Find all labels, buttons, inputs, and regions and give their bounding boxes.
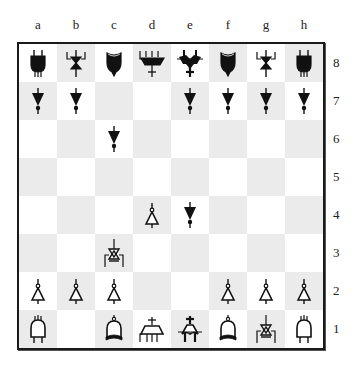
square-d3[interactable] (133, 234, 171, 272)
square-f1[interactable] (209, 310, 247, 348)
white-knight-icon[interactable] (99, 237, 129, 269)
square-c6[interactable] (95, 120, 133, 158)
square-h7[interactable] (285, 82, 323, 120)
rank-label-6: 6 (333, 120, 349, 158)
square-b6[interactable] (57, 120, 95, 158)
square-b5[interactable] (57, 158, 95, 196)
black-bishop-icon[interactable] (213, 47, 243, 79)
square-g6[interactable] (247, 120, 285, 158)
square-c8[interactable] (95, 44, 133, 82)
square-b8[interactable] (57, 44, 95, 82)
square-f3[interactable] (209, 234, 247, 272)
square-a5[interactable] (19, 158, 57, 196)
square-d6[interactable] (133, 120, 171, 158)
square-d1[interactable] (133, 310, 171, 348)
file-label-a: a (19, 17, 57, 33)
square-f7[interactable] (209, 82, 247, 120)
square-e5[interactable] (171, 158, 209, 196)
black-queen-icon[interactable] (137, 47, 167, 79)
square-f5[interactable] (209, 158, 247, 196)
file-label-c: c (95, 17, 133, 33)
square-d2[interactable] (133, 272, 171, 310)
square-e6[interactable] (171, 120, 209, 158)
black-knight-icon[interactable] (251, 47, 281, 79)
black-bishop-icon[interactable] (99, 47, 129, 79)
white-pawn-icon[interactable] (213, 275, 243, 307)
square-g4[interactable] (247, 196, 285, 234)
square-c1[interactable] (95, 310, 133, 348)
square-a6[interactable] (19, 120, 57, 158)
square-h6[interactable] (285, 120, 323, 158)
black-pawn-icon[interactable] (175, 85, 205, 117)
square-a1[interactable] (19, 310, 57, 348)
black-rook-icon[interactable] (23, 47, 53, 79)
black-pawn-icon[interactable] (289, 85, 319, 117)
square-h8[interactable] (285, 44, 323, 82)
square-e1[interactable] (171, 310, 209, 348)
white-king-icon[interactable] (175, 313, 205, 345)
square-d4[interactable] (133, 196, 171, 234)
square-e3[interactable] (171, 234, 209, 272)
black-pawn-icon[interactable] (99, 123, 129, 155)
rank-label-4: 4 (333, 196, 349, 234)
square-h3[interactable] (285, 234, 323, 272)
white-pawn-icon[interactable] (61, 275, 91, 307)
square-h2[interactable] (285, 272, 323, 310)
black-rook-icon[interactable] (289, 47, 319, 79)
square-b1[interactable] (57, 310, 95, 348)
square-b3[interactable] (57, 234, 95, 272)
black-pawn-icon[interactable] (251, 85, 281, 117)
white-pawn-icon[interactable] (251, 275, 281, 307)
square-c3[interactable] (95, 234, 133, 272)
square-a4[interactable] (19, 196, 57, 234)
square-b7[interactable] (57, 82, 95, 120)
square-h4[interactable] (285, 196, 323, 234)
square-c7[interactable] (95, 82, 133, 120)
square-a3[interactable] (19, 234, 57, 272)
square-g3[interactable] (247, 234, 285, 272)
square-f8[interactable] (209, 44, 247, 82)
black-pawn-icon[interactable] (61, 85, 91, 117)
square-c2[interactable] (95, 272, 133, 310)
black-king-icon[interactable] (175, 47, 205, 79)
square-g8[interactable] (247, 44, 285, 82)
square-f2[interactable] (209, 272, 247, 310)
square-c5[interactable] (95, 158, 133, 196)
square-e4[interactable] (171, 196, 209, 234)
square-a7[interactable] (19, 82, 57, 120)
square-d7[interactable] (133, 82, 171, 120)
white-rook-icon[interactable] (289, 313, 319, 345)
white-bishop-icon[interactable] (99, 313, 129, 345)
white-pawn-icon[interactable] (289, 275, 319, 307)
white-bishop-icon[interactable] (213, 313, 243, 345)
file-label-d: d (133, 17, 171, 33)
square-b2[interactable] (57, 272, 95, 310)
white-pawn-icon[interactable] (137, 199, 167, 231)
square-f6[interactable] (209, 120, 247, 158)
black-pawn-icon[interactable] (23, 85, 53, 117)
white-rook-icon[interactable] (23, 313, 53, 345)
square-f4[interactable] (209, 196, 247, 234)
white-knight-icon[interactable] (251, 313, 281, 345)
square-g2[interactable] (247, 272, 285, 310)
black-knight-icon[interactable] (61, 47, 91, 79)
white-pawn-icon[interactable] (23, 275, 53, 307)
square-d5[interactable] (133, 158, 171, 196)
square-a2[interactable] (19, 272, 57, 310)
square-g5[interactable] (247, 158, 285, 196)
square-d8[interactable] (133, 44, 171, 82)
square-e7[interactable] (171, 82, 209, 120)
square-g1[interactable] (247, 310, 285, 348)
square-e8[interactable] (171, 44, 209, 82)
square-h5[interactable] (285, 158, 323, 196)
square-c4[interactable] (95, 196, 133, 234)
square-h1[interactable] (285, 310, 323, 348)
black-pawn-icon[interactable] (213, 85, 243, 117)
square-g7[interactable] (247, 82, 285, 120)
square-e2[interactable] (171, 272, 209, 310)
square-b4[interactable] (57, 196, 95, 234)
black-pawn-icon[interactable] (175, 199, 205, 231)
square-a8[interactable] (19, 44, 57, 82)
white-pawn-icon[interactable] (99, 275, 129, 307)
white-queen-icon[interactable] (137, 313, 167, 345)
